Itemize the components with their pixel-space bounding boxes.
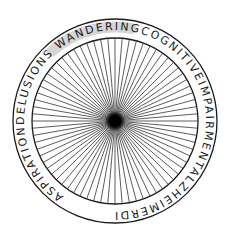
ring-text-segment: ASPIRATION — [14, 125, 66, 204]
word-wheel-diagram: ASPIRATIONDELUSIONS WANDERINGCOGNITIVEIM… — [0, 0, 229, 240]
center-hub — [105, 111, 125, 131]
